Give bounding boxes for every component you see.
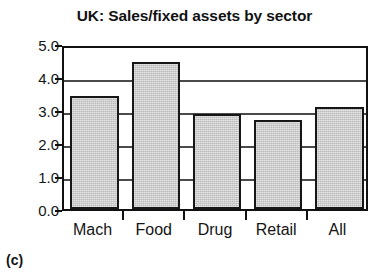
- figure-caption: (c): [6, 252, 23, 268]
- x-axis-tick-label: Food: [123, 221, 184, 239]
- x-axis-tick-label: All: [307, 221, 368, 239]
- chart-title: UK: Sales/fixed assets by sector: [0, 7, 389, 25]
- y-axis-tick-label: 4.0: [13, 71, 59, 86]
- y-axis-tick-label: 1.0: [13, 170, 59, 185]
- x-axis-tick-mark: [306, 211, 308, 220]
- y-axis-tick-mark: [55, 111, 62, 113]
- x-axis-tick-label: Drug: [184, 221, 245, 239]
- y-axis-tick-mark: [55, 78, 62, 80]
- figure-container: UK: Sales/fixed assets by sector (c) 5.0…: [0, 0, 389, 280]
- bar-drug[interactable]: [193, 114, 241, 209]
- y-axis-tick-label: 3.0: [13, 104, 59, 119]
- plot-area: [62, 46, 368, 211]
- x-axis-tick-label: Mach: [62, 221, 123, 239]
- bar-food[interactable]: [132, 62, 180, 209]
- y-axis-tick-label: 2.0: [13, 137, 59, 152]
- x-axis-tick-mark: [183, 211, 185, 220]
- y-axis-tick-mark: [55, 144, 62, 146]
- x-axis-tick-mark: [122, 211, 124, 220]
- gridline: [64, 80, 366, 82]
- y-axis-tick-mark: [55, 210, 62, 212]
- bar-mach[interactable]: [70, 96, 118, 209]
- bar-retail[interactable]: [254, 120, 302, 209]
- plot-inner: [64, 48, 366, 209]
- x-axis-tick-label: Retail: [246, 221, 307, 239]
- y-axis-tick-mark: [55, 45, 62, 47]
- bar-all[interactable]: [315, 107, 363, 209]
- y-axis-tick-label: 5.0: [13, 38, 59, 53]
- y-axis-tick-label: 0.0: [13, 203, 59, 218]
- y-axis-tick-mark: [55, 177, 62, 179]
- x-axis-tick-mark: [245, 211, 247, 220]
